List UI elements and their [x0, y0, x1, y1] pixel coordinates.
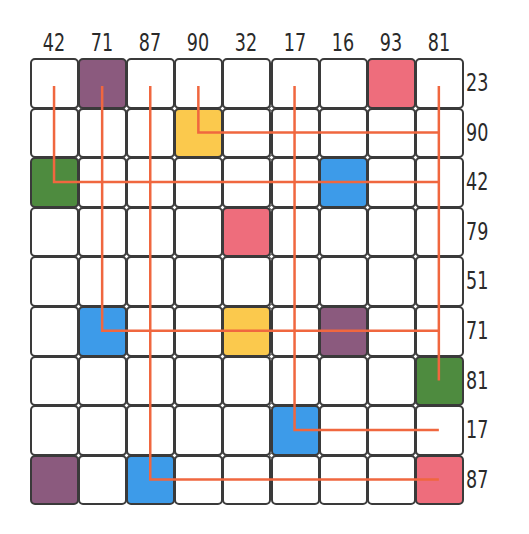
grid-cell[interactable] — [174, 157, 223, 208]
grid-cell[interactable] — [126, 58, 175, 109]
grid-cell[interactable] — [415, 306, 464, 357]
grid-cell[interactable] — [271, 58, 320, 109]
grid-node — [124, 106, 129, 111]
grid-cell[interactable] — [222, 256, 271, 307]
grid-cell[interactable] — [126, 207, 175, 258]
colored-cell[interactable] — [126, 455, 175, 506]
grid-node — [76, 354, 81, 359]
grid-cell[interactable] — [367, 405, 416, 456]
grid-cell[interactable] — [367, 108, 416, 159]
grid-cell[interactable] — [415, 58, 464, 109]
grid-cell[interactable] — [174, 405, 223, 456]
grid-cell[interactable] — [271, 356, 320, 407]
grid-cell[interactable] — [78, 108, 127, 159]
grid-cell[interactable] — [78, 405, 127, 456]
colored-cell[interactable] — [30, 455, 79, 506]
grid-node — [124, 205, 129, 210]
grid-node — [413, 403, 418, 408]
grid-node — [365, 453, 370, 458]
grid-cell[interactable] — [222, 108, 271, 159]
grid-cell[interactable] — [174, 306, 223, 357]
colored-cell[interactable] — [415, 356, 464, 407]
grid-node — [269, 205, 274, 210]
grid-cell[interactable] — [367, 306, 416, 357]
grid-node — [365, 155, 370, 160]
grid-cell[interactable] — [271, 157, 320, 208]
grid-cell[interactable] — [126, 157, 175, 208]
grid-cell[interactable] — [174, 58, 223, 109]
grid-cell[interactable] — [30, 306, 79, 357]
grid-cell[interactable] — [319, 108, 368, 159]
grid-cell[interactable] — [30, 108, 79, 159]
colored-cell[interactable] — [367, 58, 416, 109]
grid-cell[interactable] — [367, 356, 416, 407]
grid-cell[interactable] — [222, 455, 271, 506]
grid-cell[interactable] — [319, 356, 368, 407]
grid-cell[interactable] — [319, 256, 368, 307]
grid-cell[interactable] — [367, 455, 416, 506]
grid-cell[interactable] — [271, 256, 320, 307]
grid-cell[interactable] — [271, 455, 320, 506]
column-label: 90 — [180, 28, 217, 57]
grid-cell[interactable] — [78, 256, 127, 307]
colored-cell[interactable] — [222, 306, 271, 357]
grid-cell[interactable] — [222, 356, 271, 407]
grid-cell[interactable] — [222, 157, 271, 208]
grid-cell[interactable] — [126, 405, 175, 456]
colored-cell[interactable] — [222, 207, 271, 258]
grid-cell[interactable] — [126, 356, 175, 407]
grid-cell[interactable] — [126, 256, 175, 307]
grid-cell[interactable] — [367, 207, 416, 258]
colored-cell[interactable] — [319, 306, 368, 357]
colored-cell[interactable] — [319, 157, 368, 208]
grid-cell[interactable] — [415, 207, 464, 258]
grid-node — [365, 205, 370, 210]
grid-cell[interactable] — [126, 108, 175, 159]
colored-cell[interactable] — [271, 405, 320, 456]
row-label: 79 — [466, 217, 497, 246]
grid-cell[interactable] — [78, 207, 127, 258]
grid-cell[interactable] — [271, 108, 320, 159]
grid-cell[interactable] — [30, 405, 79, 456]
grid-cell[interactable] — [319, 455, 368, 506]
grid-cell[interactable] — [367, 157, 416, 208]
grid-cell[interactable] — [78, 157, 127, 208]
colored-cell[interactable] — [415, 455, 464, 506]
grid-cell[interactable] — [126, 306, 175, 357]
grid-cell[interactable] — [174, 207, 223, 258]
grid-cell[interactable] — [271, 207, 320, 258]
grid-cell[interactable] — [415, 108, 464, 159]
grid-cell[interactable] — [78, 455, 127, 506]
column-label: 87 — [131, 28, 168, 57]
grid-cell[interactable] — [415, 157, 464, 208]
grid-node — [413, 354, 418, 359]
colored-cell[interactable] — [174, 108, 223, 159]
colored-cell[interactable] — [78, 306, 127, 357]
grid-cell[interactable] — [174, 455, 223, 506]
grid-cell[interactable] — [367, 256, 416, 307]
column-label: 16 — [324, 28, 361, 57]
grid-cell[interactable] — [78, 356, 127, 407]
grid-cell[interactable] — [415, 256, 464, 307]
colored-cell[interactable] — [78, 58, 127, 109]
column-label: 71 — [83, 28, 120, 57]
grid-cell[interactable] — [319, 58, 368, 109]
grid-cell[interactable] — [174, 356, 223, 407]
grid-node — [76, 106, 81, 111]
grid-node — [317, 403, 322, 408]
grid-cell[interactable] — [174, 256, 223, 307]
grid-node — [76, 453, 81, 458]
colored-cell[interactable] — [30, 157, 79, 208]
grid-node — [365, 354, 370, 359]
grid-cell[interactable] — [319, 207, 368, 258]
grid-cell[interactable] — [30, 256, 79, 307]
grid-cell[interactable] — [222, 58, 271, 109]
grid-cell[interactable] — [319, 405, 368, 456]
grid-cell[interactable] — [30, 207, 79, 258]
grid-cell[interactable] — [271, 306, 320, 357]
grid-node — [317, 155, 322, 160]
grid-cell[interactable] — [222, 405, 271, 456]
grid-cell[interactable] — [30, 356, 79, 407]
grid-cell[interactable] — [415, 405, 464, 456]
grid-cell[interactable] — [30, 58, 79, 109]
